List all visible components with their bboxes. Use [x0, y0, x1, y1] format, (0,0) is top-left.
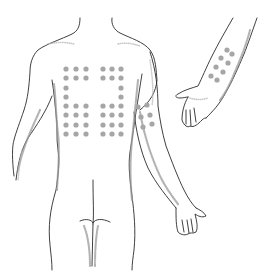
test-site-dot [109, 112, 114, 117]
back-test-sites-left [63, 66, 88, 136]
test-site-dot [224, 47, 229, 52]
test-site-dot [73, 131, 78, 136]
leg-divider-outline [92, 224, 93, 266]
test-site-dot [63, 85, 68, 90]
test-site-dot [83, 103, 88, 108]
raised-hand-finger-lines [186, 108, 196, 126]
test-site-dot [73, 122, 78, 127]
test-site-dot [135, 104, 140, 109]
test-site-dot [138, 114, 143, 119]
test-site-dot [63, 131, 68, 136]
test-site-dot [100, 112, 105, 117]
raised-forearm [176, 18, 257, 127]
test-site-dot [109, 75, 114, 80]
test-site-dot [214, 77, 219, 82]
test-site-dot [109, 122, 114, 127]
left-arm-inner-outline [16, 96, 52, 180]
test-site-dot [100, 75, 105, 80]
test-site-dot [83, 122, 88, 127]
forearm-test-sites [208, 47, 234, 82]
test-site-dot [83, 112, 88, 117]
test-site-dot [149, 121, 154, 126]
test-site-dot [118, 131, 123, 136]
test-site-dot [225, 60, 230, 65]
test-site-dot [63, 112, 68, 117]
test-site-dot [100, 131, 105, 136]
test-site-dot [63, 94, 68, 99]
test-site-dot [109, 103, 114, 108]
test-site-dot [140, 124, 145, 129]
test-site-dot [83, 131, 88, 136]
test-site-dot [63, 66, 68, 71]
test-site-dot [118, 94, 123, 99]
test-site-dot [109, 66, 114, 71]
body-shading [18, 43, 178, 267]
test-site-dot [83, 66, 88, 71]
test-site-dot [73, 103, 78, 108]
test-site-dot [220, 69, 225, 74]
test-site-dot [118, 85, 123, 90]
test-site-dot [118, 122, 123, 127]
test-site-dot [118, 66, 123, 71]
test-site-dot [100, 66, 105, 71]
forearm-left-outline [176, 18, 233, 98]
test-site-dot [73, 112, 78, 117]
test-site-dot [208, 73, 213, 78]
test-site-dot [109, 131, 114, 136]
test-site-dot [83, 75, 88, 80]
test-site-dot [118, 103, 123, 108]
body-outline [13, 18, 207, 270]
test-site-dot [63, 75, 68, 80]
test-site-dot [100, 103, 105, 108]
test-site-dot [63, 103, 68, 108]
test-site-dot [118, 112, 123, 117]
test-site-dot [218, 55, 223, 60]
test-site-dot [144, 102, 149, 107]
test-site-dot [147, 112, 152, 117]
back-test-sites-right [100, 66, 123, 136]
skin-test-site-illustration [0, 0, 265, 275]
test-site-dot [73, 75, 78, 80]
buttocks-cleft-outline [80, 180, 110, 224]
right-hand-finger-lines [182, 219, 193, 233]
test-site-dot [118, 75, 123, 80]
test-site-dot [100, 122, 105, 127]
test-site-dot [73, 66, 78, 71]
test-site-dot [229, 51, 234, 56]
upper-arm-test-sites [135, 102, 154, 129]
test-site-dot [213, 64, 218, 69]
test-site-dot [63, 122, 68, 127]
